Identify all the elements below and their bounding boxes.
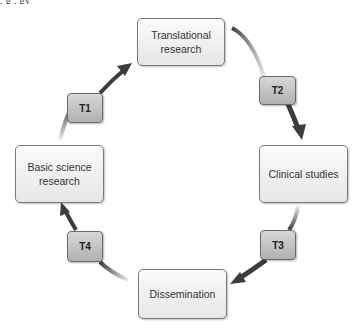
stage-basic-science-research: Basic science research [15,145,104,203]
stage-label: Dissemination [150,287,216,301]
stage-clinical-studies: Clinical studies [259,145,348,203]
transition-t4: T4 [67,231,103,262]
transition-label: T1 [79,103,91,114]
transition-label: T2 [272,85,284,96]
transition-t3: T3 [260,230,296,260]
stage-label: Clinical studies [268,167,338,181]
transition-label: T3 [272,240,284,251]
stage-label: Basic science research [25,160,95,188]
transition-label: T4 [79,241,91,252]
transition-t1: T1 [67,93,103,123]
stage-dissemination: Dissemination [138,269,227,319]
stage-translational-research: Translational research [137,18,225,66]
transition-t2: T2 [259,76,296,105]
stage-label: Translational research [146,28,216,56]
